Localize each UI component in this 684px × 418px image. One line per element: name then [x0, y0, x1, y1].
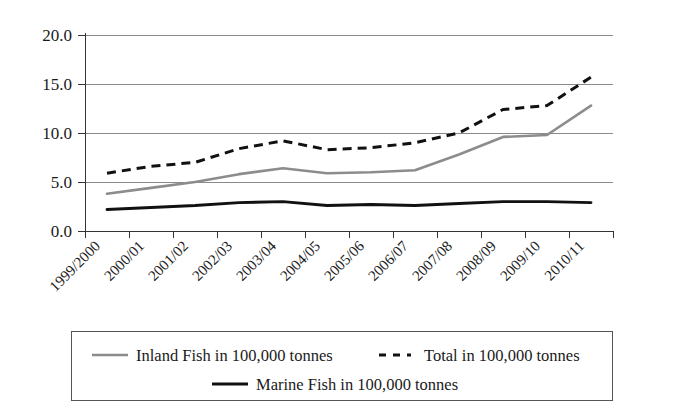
x-tick-label-2009-10: 2009/10	[497, 238, 543, 284]
y-tick-label: 20.0	[42, 26, 72, 45]
series-line-marine-fish	[107, 202, 591, 210]
x-tick-label-2005-06: 2005/06	[321, 237, 367, 283]
legend: Inland Fish in 100,000 tonnes Total in 1…	[72, 332, 613, 401]
chart-container: 0.05.010.015.020.0 1999/20002000/012001/…	[0, 0, 684, 418]
series-line-total	[107, 77, 591, 173]
y-tick-label: 15.0	[42, 75, 72, 94]
x-tick-labels: 1999/20002000/012001/022002/032003/04200…	[46, 237, 587, 294]
y-tick-label: 5.0	[51, 173, 72, 192]
plot-series	[107, 77, 591, 209]
x-tick-label-2002-03: 2002/03	[189, 238, 235, 284]
line-chart: 0.05.010.015.020.0 1999/20002000/012001/…	[0, 0, 684, 418]
x-tick-label-2006-07: 2006/07	[365, 237, 411, 283]
x-tick-label-2000-01: 2000/01	[101, 238, 147, 284]
x-tick-label-2001-02: 2001/02	[145, 238, 191, 284]
x-tick-label-2004-05: 2004/05	[277, 238, 323, 284]
y-tick-labels: 0.05.010.015.020.0	[42, 26, 72, 241]
x-tick-label-1999-2000: 1999/2000	[46, 238, 103, 295]
x-tick-label-2010-11: 2010/11	[541, 238, 587, 284]
x-tick-label-2003-04: 2003/04	[233, 237, 279, 283]
legend-label-inland-fish: Inland Fish in 100,000 tonnes	[136, 346, 333, 365]
legend-label-total: Total in 100,000 tonnes	[424, 346, 580, 365]
y-tick-marks	[78, 36, 85, 232]
x-tick-label-2007-08: 2007/08	[409, 238, 455, 284]
legend-label-marine-fish: Marine Fish in 100,000 tonnes	[256, 375, 458, 394]
y-tick-label: 0.0	[51, 222, 72, 241]
y-tick-label: 10.0	[42, 124, 72, 143]
x-tick-label-2008-09: 2008/09	[453, 238, 499, 284]
